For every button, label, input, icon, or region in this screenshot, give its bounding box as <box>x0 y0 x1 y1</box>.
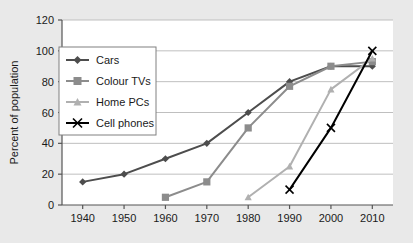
data-point <box>327 63 334 70</box>
y-tick-label: 80 <box>42 76 54 88</box>
y-tick-label: 60 <box>42 107 54 119</box>
y-tick-label: 0 <box>48 199 54 211</box>
legend-marker-square-icon <box>74 77 82 85</box>
data-point <box>203 178 210 185</box>
x-tick-label: 1970 <box>195 212 219 224</box>
legend-label: Cell phones <box>96 117 155 129</box>
data-point <box>245 124 252 131</box>
x-tick-label: 2010 <box>360 212 384 224</box>
y-tick-label: 100 <box>36 45 54 57</box>
x-tick-label: 1940 <box>70 212 94 224</box>
x-tick-label: 1960 <box>153 212 177 224</box>
data-point <box>162 194 169 201</box>
x-tick-label: 1990 <box>277 212 301 224</box>
x-tick-label: 2000 <box>319 212 343 224</box>
chart-container: 020406080100120 194019501960197019801990… <box>0 0 413 243</box>
y-axis-title: Percent of population <box>8 61 20 165</box>
legend-label: Colour TVs <box>96 75 151 87</box>
line-chart: 020406080100120 194019501960197019801990… <box>0 0 413 243</box>
y-tick-label: 20 <box>42 168 54 180</box>
x-tick-label: 1980 <box>236 212 260 224</box>
data-point <box>286 83 293 90</box>
chart-legend: CarsColour TVsHome PCsCell phones <box>59 47 156 135</box>
legend-label: Home PCs <box>96 96 150 108</box>
x-tick-label: 1950 <box>112 212 136 224</box>
y-tick-label: 40 <box>42 137 54 149</box>
legend-label: Cars <box>96 54 120 66</box>
y-tick-label: 120 <box>36 14 54 26</box>
